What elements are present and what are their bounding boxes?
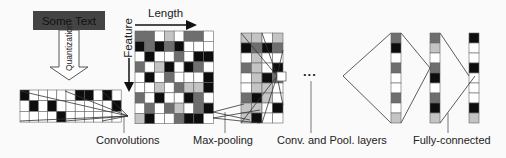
grid-cell <box>204 103 214 113</box>
feature-map-grid <box>135 31 213 124</box>
grid-cell <box>145 113 155 123</box>
grid-cell <box>164 103 174 113</box>
grid-cell <box>194 52 204 62</box>
grid-cell <box>241 73 252 83</box>
fc-cell <box>430 73 440 83</box>
grid-cell <box>135 41 145 51</box>
grid-cell <box>174 31 184 41</box>
grid-cell <box>273 33 284 43</box>
grid-cell <box>164 31 174 41</box>
feature-arrow-icon <box>124 58 134 92</box>
fc-cell <box>391 63 401 73</box>
grid-cell <box>262 73 273 83</box>
grid-cell <box>145 31 155 41</box>
grid-cell <box>48 111 57 122</box>
grid-cell <box>184 103 194 113</box>
grid-cell <box>184 52 194 62</box>
fully-connected-label: Fully-connected <box>413 134 491 146</box>
grid-cell <box>155 93 165 103</box>
grid-cell <box>164 41 174 51</box>
grid-cell <box>184 93 194 103</box>
length-axis-label: Length <box>148 7 183 19</box>
grid-cell <box>135 62 145 72</box>
grid-cell <box>75 101 84 112</box>
fc-cell <box>430 83 440 93</box>
grid-cell <box>273 103 284 113</box>
grid-cell <box>204 62 214 72</box>
grid-cell <box>145 52 155 62</box>
grid-cell <box>75 111 84 122</box>
grid-cell <box>155 41 165 51</box>
grid-cell <box>204 41 214 51</box>
fully-connected-columns <box>391 33 479 123</box>
grid-cell <box>174 41 184 51</box>
grid-cell <box>174 83 184 93</box>
grid-cell <box>194 113 204 123</box>
grid-cell <box>273 43 284 53</box>
grid-cell <box>252 73 263 83</box>
grid-cell <box>184 41 194 51</box>
grid-cell <box>155 31 165 41</box>
grid-cell <box>164 83 174 93</box>
grid-cell <box>155 62 165 72</box>
grid-cell <box>174 93 184 103</box>
grid-cell <box>164 62 174 72</box>
fc-cell <box>469 83 479 93</box>
grid-cell <box>194 93 204 103</box>
fc-cell <box>391 103 401 113</box>
fc-cell <box>391 113 401 123</box>
grid-cell <box>164 72 174 82</box>
grid-cell <box>252 53 263 63</box>
grid-cell <box>241 63 252 73</box>
conv-pool-layers-label: Conv. and Pool. layers <box>277 134 387 146</box>
grid-cell <box>204 93 214 103</box>
grid-cell <box>29 101 38 112</box>
fc-cell <box>391 43 401 53</box>
fc-cell <box>469 53 479 63</box>
convolutions-label: Convolutions <box>96 134 160 146</box>
fc-cell <box>391 53 401 63</box>
grid-cell <box>135 52 145 62</box>
quantization-label: Quantization <box>64 25 74 71</box>
fc-cell <box>430 53 440 63</box>
length-arrow-icon <box>135 20 197 30</box>
grid-cell <box>112 90 121 101</box>
grid-cell <box>135 93 145 103</box>
fc-cell <box>391 73 401 83</box>
grid-cell <box>241 43 252 53</box>
grid-cell <box>20 101 29 112</box>
grid-cell <box>155 72 165 82</box>
grid-cell <box>135 83 145 93</box>
grid-cell <box>184 83 194 93</box>
grid-cell <box>204 113 214 123</box>
fc-cell <box>469 103 479 113</box>
fc-cell <box>391 33 401 43</box>
grid-cell <box>135 72 145 82</box>
grid-cell <box>57 90 66 101</box>
grid-cell <box>194 83 204 93</box>
grid-cell <box>174 103 184 113</box>
grid-cell <box>252 63 263 73</box>
grid-cell <box>194 31 204 41</box>
grid-cell <box>145 62 155 72</box>
fc-cell <box>391 93 401 103</box>
grid-cell <box>103 101 112 112</box>
grid-cell <box>204 31 214 41</box>
fc-cell <box>391 83 401 93</box>
fc-cell <box>469 33 479 43</box>
ellipsis-label: ... <box>303 64 317 79</box>
grid-cell <box>174 72 184 82</box>
grid-cell <box>174 62 184 72</box>
grid-cell <box>184 62 194 72</box>
grid-cell <box>194 103 204 113</box>
grid-cell <box>252 113 263 123</box>
grid-cell <box>94 90 103 101</box>
grid-cell <box>135 113 145 123</box>
grid-cell <box>145 72 155 82</box>
fc-cell <box>430 113 440 123</box>
grid-cell <box>262 103 273 113</box>
grid-cell <box>57 101 66 112</box>
grid-cell <box>241 53 252 63</box>
grid-cell <box>184 72 194 82</box>
grid-cell <box>204 52 214 62</box>
